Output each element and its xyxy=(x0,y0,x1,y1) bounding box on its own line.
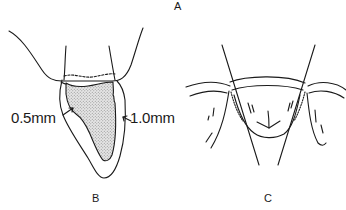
panel-b-drawing xyxy=(9,28,143,178)
neighbor-tooth-right-top xyxy=(308,83,346,90)
neighbor-tooth-left-inner xyxy=(190,91,227,96)
path-of-insertion-right xyxy=(278,45,315,165)
panel-label-b: B xyxy=(92,193,99,204)
figure-drawing xyxy=(0,0,346,210)
tooth-wall-right xyxy=(109,46,115,80)
panel-label-c: C xyxy=(264,193,272,204)
arrow-0-5mm-line xyxy=(63,108,73,115)
panel-c-drawing xyxy=(186,45,346,165)
margin-line-left xyxy=(61,82,66,84)
path-of-insertion-left xyxy=(222,45,259,165)
neighbor-tooth-right-inner xyxy=(309,91,344,98)
crown-arc-outer xyxy=(230,77,305,83)
neighbor-tooth-right-body xyxy=(307,93,326,145)
neighbor-tooth-left-body xyxy=(211,91,229,148)
dental-preparation-figure: A B C 0.5mm 1.0mm xyxy=(0,0,346,210)
dimension-label-0-5mm: 0.5mm xyxy=(11,110,56,125)
dimension-label-1-0mm: 1.0mm xyxy=(130,110,175,125)
original-contour-dashed xyxy=(64,74,115,77)
tooth-wall-left xyxy=(64,46,66,80)
panel-label-a: A xyxy=(174,1,181,12)
gingival-outline xyxy=(9,28,143,81)
neighbor-tooth-left-top xyxy=(186,82,230,87)
crown-arc-inner xyxy=(232,86,303,91)
prepared-core xyxy=(66,82,116,161)
cingulum-stem xyxy=(268,111,269,128)
